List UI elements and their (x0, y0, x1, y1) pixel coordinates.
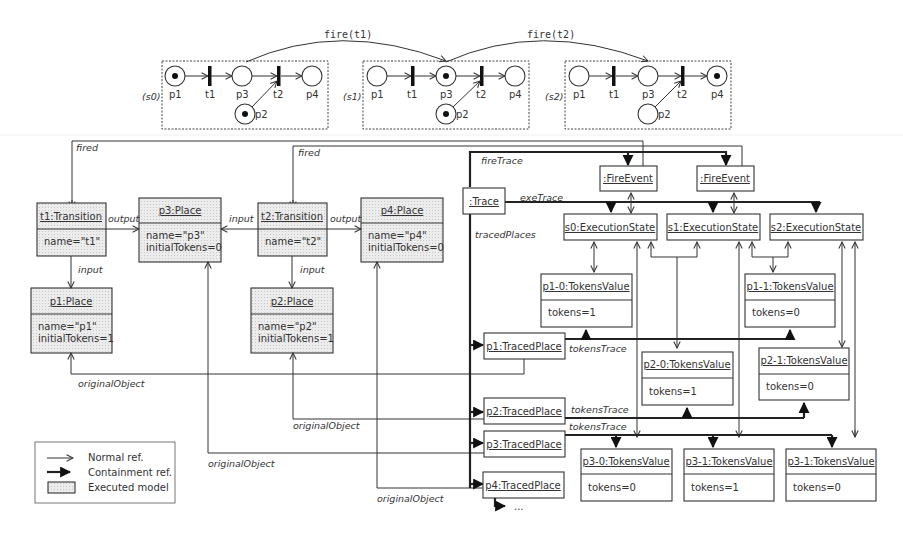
traced-place-p1: p1:TracedPlace (484, 333, 565, 359)
state-label: (s1) (343, 91, 361, 102)
svg-text:t1: t1 (205, 89, 215, 100)
svg-text:tokens=1: tokens=1 (691, 482, 739, 493)
execution-state-s2: s2:ExecutionState (770, 214, 863, 240)
svg-text:p1: p1 (573, 89, 586, 100)
tokens-value-p1-1: p1-1:TokensValue tokens=0 (745, 274, 835, 327)
tokens-value-p3-1: p3-1:TokensValue tokens=1 (684, 449, 774, 501)
tokens-value-p3-0: p3-0:TokensValue tokens=0 (581, 449, 672, 501)
executed-model-swatch-icon (48, 482, 75, 493)
svg-text:p1: p1 (371, 89, 384, 100)
svg-text:name="p4": name="p4" (368, 230, 427, 241)
t1-transition-object: t1:Transition name="t1" (37, 203, 106, 256)
petri-net-state-s2: (s2) p1 t1 p3 t2 p4 p2 (545, 61, 731, 129)
svg-text:tokensTrace: tokensTrace (569, 343, 627, 354)
svg-text:p1: p1 (169, 89, 182, 100)
execution-state-s0: s0:ExecutionState (564, 214, 657, 240)
svg-text:name="p2": name="p2" (258, 321, 317, 332)
petri-net-state-s1: (s1) p1 t1 p3 t2 p4 p2 (343, 61, 529, 129)
svg-text:p1:Place: p1:Place (50, 296, 93, 307)
p3-place-object: p3:Place name="p3" initialTokens=0 (139, 198, 222, 262)
svg-text:input: input (78, 264, 104, 275)
svg-text:tracedPlaces: tracedPlaces (475, 229, 536, 240)
state-label: (s0) (142, 91, 160, 102)
svg-text:p4:Place: p4:Place (381, 205, 424, 216)
svg-text:t1:Transition: t1:Transition (40, 211, 102, 222)
svg-text:name="t2": name="t2" (265, 236, 321, 247)
svg-text:p2:Place: p2:Place (271, 296, 314, 307)
svg-text:tokens=0: tokens=0 (793, 482, 841, 493)
svg-text:exeTrace: exeTrace (520, 192, 563, 203)
tokens-value-p2-0: p2-0:TokensValue tokens=1 (642, 352, 733, 405)
svg-text:t1: t1 (609, 89, 619, 100)
svg-text:originalObject: originalObject (78, 378, 146, 389)
svg-text:s2:ExecutionState: s2:ExecutionState (771, 222, 861, 233)
p4-place-object: p4:Place name="p4" initialTokens=0 (361, 198, 444, 262)
svg-text:input: input (300, 264, 326, 275)
svg-text:output: output (108, 213, 141, 224)
svg-text:Executed model: Executed model (88, 482, 169, 493)
svg-text:tokensTrace: tokensTrace (571, 404, 629, 415)
svg-text:Normal ref.: Normal ref. (88, 452, 143, 463)
p2-place-object: p2:Place name="p2" initialTokens=1 (251, 288, 334, 353)
t2-transition-object: t2:Transition name="t2" (258, 203, 327, 256)
svg-text:p4: p4 (711, 89, 724, 100)
svg-text:tokens=1: tokens=1 (649, 386, 697, 397)
svg-text:p3-0:TokensValue: p3-0:TokensValue (582, 456, 669, 467)
fire-event-2: :FireEvent (697, 166, 754, 191)
traced-place-p3: p3:TracedPlace (484, 431, 565, 457)
svg-text:p2: p2 (456, 109, 469, 120)
svg-text:p2-1:TokensValue: p2-1:TokensValue (760, 355, 847, 366)
svg-text:name="t1": name="t1" (44, 236, 100, 247)
ellipsis: ... (514, 501, 524, 512)
traced-place-p2: p2:TracedPlace (484, 398, 565, 424)
place-p4 (302, 66, 322, 86)
tokens-value-p2-1: p2-1:TokensValue tokens=0 (759, 348, 849, 400)
svg-text::Trace: :Trace (469, 196, 499, 207)
svg-text:tokens=0: tokens=0 (752, 307, 800, 318)
svg-text:initialTokens=0: initialTokens=0 (146, 242, 222, 253)
svg-text:p1-0:TokensValue: p1-0:TokensValue (542, 281, 629, 292)
svg-text:fired: fired (298, 147, 321, 158)
svg-text:fireTrace: fireTrace (481, 155, 523, 166)
svg-text:Containment ref.: Containment ref. (88, 467, 172, 478)
svg-text:originalObject: originalObject (377, 493, 445, 504)
svg-text:initialTokens=1: initialTokens=1 (38, 333, 114, 344)
svg-text:s0:ExecutionState: s0:ExecutionState (565, 222, 655, 233)
tokens-value-p3-2: p3-1:TokensValue tokens=0 (786, 449, 876, 501)
transition-t1 (208, 66, 212, 86)
svg-text:p2-0:TokensValue: p2-0:TokensValue (643, 359, 730, 370)
svg-text:originalObject: originalObject (293, 420, 361, 431)
svg-text:input: input (229, 213, 255, 224)
svg-text:p4:TracedPlace: p4:TracedPlace (485, 480, 561, 491)
svg-text:t2: t2 (273, 89, 283, 100)
trace-object: :Trace (463, 188, 505, 214)
svg-text:p2: p2 (255, 109, 268, 120)
svg-text:t2:Transition: t2:Transition (261, 211, 323, 222)
legend: Normal ref. Containment ref. Executed mo… (35, 442, 175, 503)
svg-text:t2: t2 (476, 89, 486, 100)
svg-text:p2: p2 (658, 109, 671, 120)
svg-text:tokensTrace: tokensTrace (569, 421, 627, 432)
svg-text:output: output (330, 213, 363, 224)
svg-text:p4: p4 (306, 89, 319, 100)
state-label: (s2) (545, 91, 563, 102)
svg-text:tokens=0: tokens=0 (766, 381, 814, 392)
svg-text:initialTokens=1: initialTokens=1 (258, 333, 334, 344)
svg-text:p3: p3 (440, 89, 453, 100)
svg-text:t2: t2 (677, 89, 687, 100)
fire-t2-label: fire(t2) (527, 29, 575, 40)
svg-text:p3-1:TokensValue: p3-1:TokensValue (685, 456, 772, 467)
svg-text:t1: t1 (407, 89, 417, 100)
svg-text:p2:TracedPlace: p2:TracedPlace (486, 406, 562, 417)
svg-text::FireEvent: :FireEvent (700, 173, 750, 184)
svg-text:p3: p3 (236, 89, 249, 100)
svg-text:p1-1:TokensValue: p1-1:TokensValue (746, 281, 833, 292)
svg-text:initialTokens=0: initialTokens=0 (368, 242, 444, 253)
petri-net-state-s0: (s0) p1 t1 p3 t2 p4 p2 (142, 61, 328, 129)
fire-event-1: :FireEvent (600, 166, 657, 191)
p1-place-object: p1:Place name="p1" initialTokens=1 (31, 288, 114, 353)
svg-text:p3:Place: p3:Place (159, 205, 202, 216)
svg-text:s1:ExecutionState: s1:ExecutionState (668, 222, 758, 233)
svg-text:tokens=1: tokens=1 (548, 307, 596, 318)
fire-t1-label: fire(t1) (324, 29, 372, 40)
